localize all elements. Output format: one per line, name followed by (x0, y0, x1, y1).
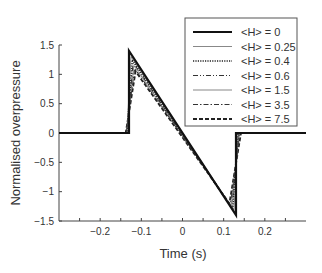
legend: <H> = 0<H> = 0.25<H> = 0.4<H> = 0.6<H> =… (185, 18, 297, 126)
y-tick-label: 1 (48, 69, 54, 80)
x-tick-label: −0.2 (90, 226, 110, 237)
y-tick-label: −0.5 (34, 157, 54, 168)
x-tick-label: 0 (180, 226, 186, 237)
chart: 1.510.50−0.5−1−1.5−0.2−0.100.10.2 <H> = … (0, 0, 322, 273)
legend-entry: <H> = 3.5 (241, 99, 290, 111)
legend-entry: <H> = 0.25 (241, 41, 296, 53)
y-tick-label: −1.5 (34, 216, 54, 227)
x-tick-label: 0.1 (217, 226, 231, 237)
legend-entry: <H> = 1.5 (241, 84, 290, 96)
legend-entry: <H> = 0.4 (241, 55, 290, 67)
y-tick-label: 0 (48, 128, 54, 139)
y-tick-label: 1.5 (40, 40, 54, 51)
legend-entry: <H> = 7.5 (241, 113, 290, 125)
x-tick-label: 0.2 (258, 226, 272, 237)
y-axis-label: Normalised overpressure (8, 60, 23, 205)
legend-entry: <H> = 0.6 (241, 70, 290, 82)
y-tick-label: 0.5 (40, 98, 54, 109)
x-axis-label: Time (s) (159, 246, 206, 261)
x-tick-label: −0.1 (131, 226, 151, 237)
y-tick-label: −1 (43, 186, 55, 197)
legend-entry: <H> = 0 (241, 26, 280, 38)
